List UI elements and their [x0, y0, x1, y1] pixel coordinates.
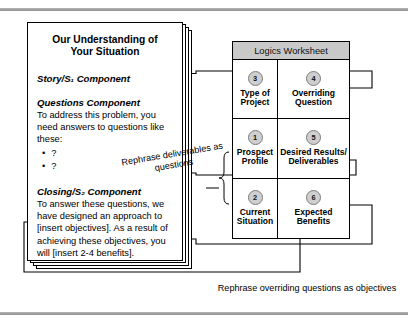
diagram-canvas: Our Understanding of Your Situation Stor… [0, 0, 408, 327]
worksheet-header: Logics Worksheet [233, 42, 349, 60]
badge-number: 5 [306, 130, 321, 145]
document-title: Our Understanding of Your Situation [41, 34, 169, 59]
cell-label: Type of Project [234, 89, 276, 108]
understanding-document-stack: Our Understanding of Your Situation Stor… [27, 22, 192, 269]
section-heading-story: Story/S₁ Component [37, 73, 173, 84]
annotation-rephrase-overriding: Rephrase overriding questions as objecti… [212, 283, 402, 294]
badge-number: 1 [248, 130, 263, 145]
cell-label: Expected Benefits [279, 208, 348, 227]
doc-sheet-front: Our Understanding of Your Situation Stor… [27, 22, 183, 261]
section-heading-closing: Closing/S₂ Component [37, 186, 173, 197]
section-body-closing: To answer these questions, we have desig… [37, 198, 173, 259]
worksheet-grid: 3 Type of Project 4 Overriding Question … [233, 60, 349, 238]
section-body-questions: To address this problem, you need answer… [37, 109, 173, 146]
badge-number: 2 [248, 190, 263, 205]
badge-number: 6 [306, 190, 321, 205]
cell-label: Prospect Profile [234, 148, 276, 167]
badge-number: 4 [306, 71, 321, 86]
logics-worksheet: Logics Worksheet 3 Type of Project 4 Ove… [232, 41, 350, 239]
worksheet-cell-desired-results[interactable]: 5 Desired Results/ Deliverables [278, 119, 349, 178]
badge-number: 3 [248, 71, 263, 86]
worksheet-cell-current-situation[interactable]: 2 Current Situation [233, 179, 278, 238]
section-heading-questions: Questions Component [37, 97, 173, 108]
worksheet-cell-expected-benefits[interactable]: 6 Expected Benefits [278, 179, 349, 238]
worksheet-cell-overriding-question[interactable]: 4 Overriding Question [278, 60, 349, 119]
worksheet-cell-type-of-project[interactable]: 3 Type of Project [233, 60, 278, 119]
cell-label: Current Situation [234, 208, 276, 227]
worksheet-cell-prospect-profile[interactable]: 1 Prospect Profile [233, 119, 278, 178]
cell-label: Overriding Question [279, 89, 348, 108]
cell-label: Desired Results/ Deliverables [279, 148, 348, 167]
